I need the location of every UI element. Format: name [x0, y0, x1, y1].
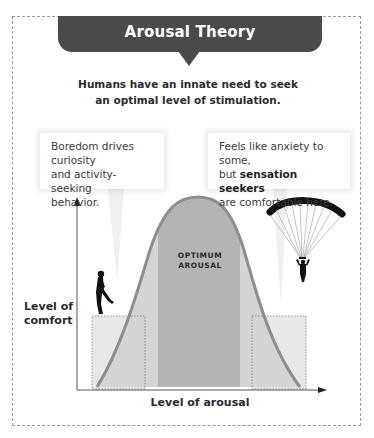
callout-right-prefix: but	[219, 168, 240, 180]
callout-right-line-2: but sensation seekers	[219, 167, 342, 195]
optimum-label-line-1: OPTIMUM	[162, 251, 238, 261]
x-axis-arrow	[318, 387, 327, 393]
y-axis-label-line-1: Level of	[24, 300, 76, 314]
arousal-curve-graph	[0, 0, 374, 438]
callout-right-line-1: Feels like anxiety to some,	[219, 139, 342, 167]
y-axis-label-line-2: comfort	[24, 314, 76, 328]
sensation-seekers-callout: Feels like anxiety to some, but sensatio…	[208, 133, 350, 189]
callout-left-line-2: and activity-seeking	[51, 167, 156, 195]
x-axis-label: Level of arousal	[100, 396, 300, 410]
walking-person-icon	[96, 271, 114, 314]
callout-right-line-3: are comfortable here.	[219, 195, 342, 209]
callout-left-line-3: behavior.	[51, 195, 156, 209]
boredom-callout: Boredom drives curiosity and activity-se…	[40, 133, 164, 189]
callout-left-line-1: Boredom drives curiosity	[51, 139, 156, 167]
optimum-arousal-label: OPTIMUM AROUSAL	[162, 251, 238, 271]
optimum-label-line-2: AROUSAL	[162, 261, 238, 271]
y-axis-label: Level of comfort	[24, 300, 76, 328]
optimum-band	[158, 190, 240, 388]
